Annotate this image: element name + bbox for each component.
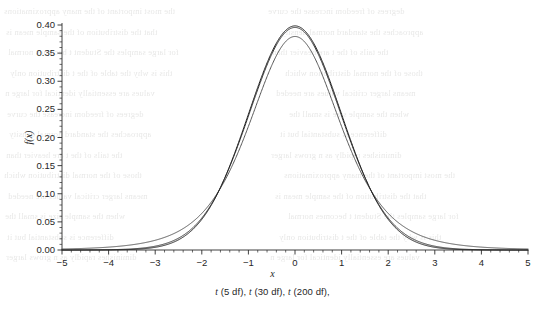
x-axis-title: x [0, 268, 545, 279]
x-tick-label: 1 [326, 257, 358, 268]
y-tick-label: 0.35 [22, 47, 55, 58]
x-tick-label: −1 [232, 257, 264, 268]
x-tick-label: −4 [93, 257, 125, 268]
curve-5df [62, 36, 528, 249]
y-tick-label: 0.40 [22, 19, 55, 30]
y-tick-label: 0.00 [22, 244, 55, 255]
x-tick-label: −3 [139, 257, 171, 268]
y-tick-label: 0.05 [22, 216, 55, 227]
y-tick-label: 0.10 [22, 188, 55, 199]
curve-30df [62, 27, 528, 250]
y-tick-label: 0.15 [22, 160, 55, 171]
x-tick-label: 5 [512, 257, 544, 268]
plot-svg [0, 0, 545, 309]
x-tick-label: −2 [186, 257, 218, 268]
axes-group [58, 23, 529, 255]
y-axis-title: f(x) [23, 118, 34, 158]
x-tick-label: 2 [372, 257, 404, 268]
y-tick-label: 0.30 [22, 75, 55, 86]
curve-200df [62, 26, 528, 250]
x-tick-label: 3 [419, 257, 451, 268]
x-tick-label: −5 [46, 257, 78, 268]
x-tick-label: 0 [279, 257, 311, 268]
t-distribution-chart: 0.000.050.100.150.200.250.300.350.40 −5−… [0, 0, 545, 309]
y-tick-label: 0.25 [22, 103, 55, 114]
plot-caption: t (5 df), t (30 df), t (200 df), [0, 286, 545, 297]
x-tick-label: 4 [465, 257, 497, 268]
curves-group [62, 26, 528, 250]
